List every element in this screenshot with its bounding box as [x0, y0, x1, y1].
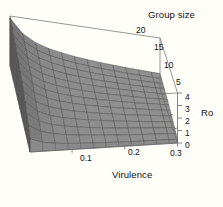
mesh-cell: [148, 104, 162, 111]
mesh-cell: [79, 135, 93, 143]
mesh-cell: [136, 109, 150, 116]
mesh-cell: [52, 125, 66, 135]
mesh-cell: [150, 115, 164, 121]
mesh-cell: [141, 128, 155, 135]
mesh-cell: [130, 135, 144, 142]
mesh-cell: [65, 126, 79, 135]
mesh-cell: [77, 127, 91, 135]
mesh-cell: [122, 102, 136, 109]
mesh-cell: [87, 112, 101, 120]
axis-title-ro: Ro: [201, 107, 213, 118]
mesh-cell: [104, 135, 118, 143]
mesh-cell: [149, 110, 163, 116]
mesh-cell: [138, 115, 152, 122]
mesh-cell: [125, 115, 139, 122]
mesh-cell: [142, 134, 156, 141]
mesh-cell: [92, 135, 106, 143]
mesh-cell: [111, 107, 125, 114]
mesh-cell: [76, 119, 90, 128]
mesh-cell: [103, 128, 117, 135]
ztick-0: 0: [185, 140, 190, 150]
mesh-cell: [54, 134, 68, 144]
xtick-0-1: 0.1: [80, 153, 92, 163]
ytick-10: 10: [164, 60, 173, 70]
mesh-cell: [100, 113, 114, 121]
ytick-20: 20: [136, 25, 145, 35]
mesh-cell: [117, 135, 131, 142]
ztick-2: 2: [185, 116, 190, 126]
mesh-cell: [74, 111, 88, 120]
mesh-cell: [85, 105, 99, 113]
mesh-cell: [124, 108, 138, 115]
ztick-3: 3: [185, 104, 190, 114]
mesh-cell: [112, 114, 126, 121]
mesh-cell: [139, 122, 153, 128]
mesh-cell: [63, 118, 77, 127]
mesh-cell: [90, 128, 104, 136]
xtick-0-2: 0.2: [128, 147, 140, 157]
mesh-cell: [66, 135, 80, 144]
mesh-cell: [127, 121, 141, 128]
mesh-cell: [114, 121, 128, 128]
axis-title-virulence: Virulence: [112, 169, 152, 180]
axis-title-group-size: Group size: [148, 9, 195, 20]
mesh-cell: [115, 128, 129, 135]
xtick-0-3: 0.3: [170, 148, 182, 158]
mesh-cell: [153, 128, 167, 134]
mesh-cell: [155, 134, 169, 141]
mesh-cell: [98, 106, 112, 114]
mesh-cell: [101, 120, 115, 128]
ytick-5: 5: [176, 77, 181, 87]
mesh-cell: [109, 101, 123, 109]
mesh-cell: [163, 116, 173, 122]
mesh-cell: [128, 128, 142, 135]
mesh-cell: [165, 122, 175, 128]
mesh-cell: [61, 109, 75, 119]
mesh-cell: [133, 97, 147, 104]
mesh-cell: [152, 122, 166, 128]
ytick-15: 15: [154, 42, 163, 52]
ztick-1: 1: [185, 128, 190, 138]
surface-mesh: [10, 18, 178, 152]
ztick-4: 4: [185, 92, 190, 102]
mesh-cell: [135, 103, 149, 110]
mesh-cell: [88, 120, 102, 128]
